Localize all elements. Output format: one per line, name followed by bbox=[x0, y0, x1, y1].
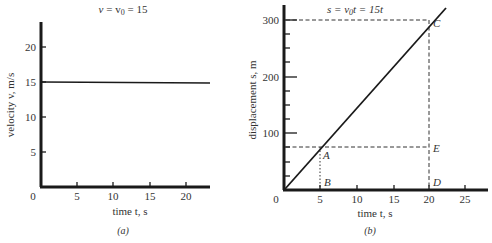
chart-a-ytick-10: 10 bbox=[25, 111, 37, 123]
chart-a-ytick-5: 5 bbox=[31, 146, 37, 158]
chart-b-xtick-5: 5 bbox=[317, 193, 323, 205]
chart-b-xlabel: time t, s bbox=[357, 207, 392, 219]
chart-b-point-A: A bbox=[322, 149, 330, 161]
chart-b-ytick-200: 200 bbox=[263, 71, 280, 83]
chart-a-xtick-10: 10 bbox=[108, 190, 120, 202]
chart-b-xtick-25: 25 bbox=[460, 193, 472, 205]
chart-a-ytick-20: 20 bbox=[25, 41, 37, 53]
chart-a-ylabel: velocity v, m/s bbox=[4, 73, 16, 137]
chart-b-point-C: C bbox=[433, 17, 441, 29]
chart-a-xtick-5: 5 bbox=[74, 190, 80, 202]
chart-a-title: v = v0 = 15 bbox=[99, 3, 148, 17]
chart-b-xtick-10: 10 bbox=[352, 193, 364, 205]
chart-a: v = v0 = 15 5 10 15 20 0 5 10 15 20 tim bbox=[4, 3, 210, 237]
chart-a-xtick-15: 15 bbox=[145, 190, 157, 202]
chart-b-title: s = v0t = 15t bbox=[327, 3, 384, 17]
chart-b-xtick-15: 15 bbox=[389, 193, 401, 205]
chart-b-point-D: D bbox=[432, 176, 441, 188]
chart-b: s = v0t = 15t 100 20 bbox=[246, 3, 488, 237]
chart-b-point-B: B bbox=[324, 176, 331, 188]
chart-b-ytick-300: 300 bbox=[263, 14, 280, 26]
chart-a-xtick-20: 20 bbox=[181, 190, 193, 202]
chart-a-ytick-15: 15 bbox=[25, 76, 37, 88]
chart-a-xtick-0: 0 bbox=[30, 190, 36, 202]
chart-a-caption: (a) bbox=[117, 225, 129, 237]
chart-a-xlabel: time t, s bbox=[112, 205, 147, 217]
chart-b-ylabel: displacement s, m bbox=[246, 60, 258, 140]
chart-b-displacement-line bbox=[285, 8, 446, 189]
figure: v = v0 = 15 5 10 15 20 0 5 10 15 20 tim bbox=[0, 0, 492, 243]
chart-b-xtick-20: 20 bbox=[424, 193, 436, 205]
chart-b-xtick-0: 0 bbox=[273, 193, 279, 205]
chart-a-velocity-line bbox=[42, 82, 210, 83]
chart-b-caption: (b) bbox=[364, 225, 376, 237]
chart-b-point-E: E bbox=[432, 142, 440, 154]
chart-b-y-ticks bbox=[284, 20, 297, 176]
chart-b-ytick-100: 100 bbox=[263, 127, 280, 139]
